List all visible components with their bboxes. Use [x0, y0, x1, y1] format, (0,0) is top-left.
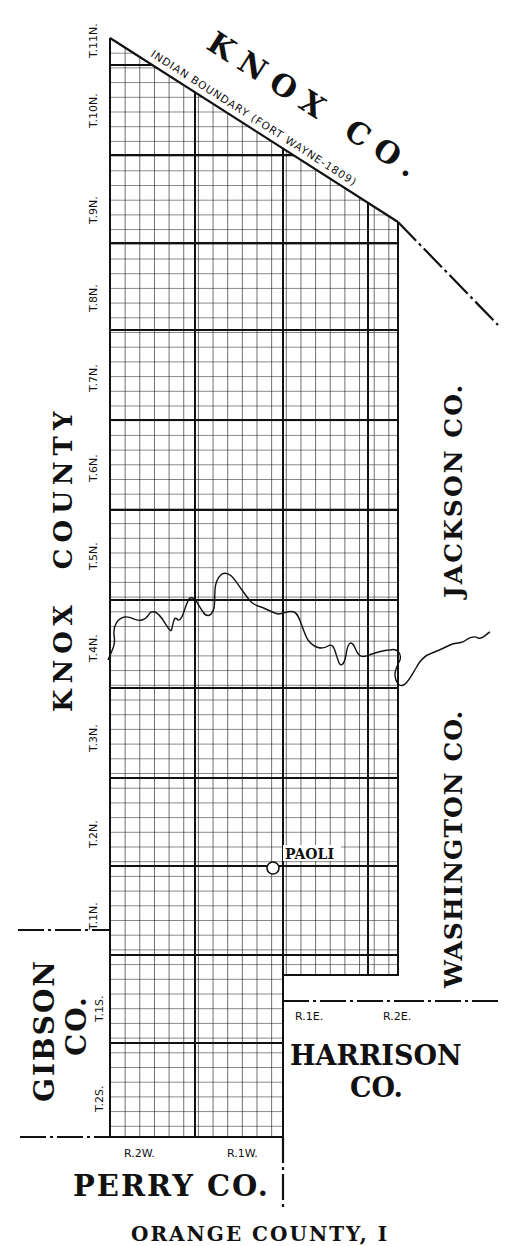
map-caption: ORANGE COUNTY, I: [0, 1222, 520, 1246]
range-label: R.2W.: [124, 1147, 155, 1160]
township-label: T.2S.: [93, 1086, 106, 1113]
township-label: T.3N.: [87, 724, 100, 753]
gibson-co-label-line2: CO.: [60, 995, 93, 1056]
section-grid: [100, 0, 400, 1140]
township-label: T.6N.: [87, 454, 100, 483]
harrison-co-label-line2: CO.: [350, 1072, 403, 1103]
town-circle-icon: [267, 862, 279, 874]
washington-co-label: WASHINGTON CO.: [439, 710, 468, 989]
paoli-label: PAOLI: [285, 846, 334, 862]
township-label: T.2N.: [87, 820, 100, 849]
range-label: R.1E.: [295, 1010, 323, 1023]
township-label: T.9N.: [87, 196, 100, 225]
township-label: T.11N.: [87, 23, 100, 59]
range-label: R.2E.: [383, 1010, 411, 1023]
township-label: T.5N.: [87, 542, 100, 571]
knox-county-left-label: KNOX COUNTY: [48, 405, 78, 712]
perry-co-label: PERRY CO.: [73, 1169, 270, 1203]
township-label: T.1N.: [87, 902, 100, 931]
range-label: R.1W.: [227, 1147, 258, 1160]
township-labels: T.11N. T.10N. T.9N. T.8N. T.7N. T.6N. T.…: [87, 23, 106, 1113]
township-label: T.7N.: [87, 364, 100, 393]
jackson-co-label: JACKSON CO.: [439, 383, 468, 600]
harrison-co-label-line1: HARRISON: [290, 1040, 462, 1071]
township-label: T.1S.: [93, 996, 106, 1023]
township-label: T.8N.: [87, 284, 100, 313]
gibson-co-label-line1: GIBSON: [28, 959, 61, 1102]
township-label: T.10N.: [87, 93, 100, 129]
township-label: T.4N.: [87, 634, 100, 663]
